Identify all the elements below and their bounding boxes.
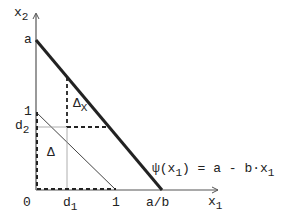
tick-a-over-b: a/b (146, 196, 169, 209)
delta-label: Δ (47, 146, 55, 159)
delta-x-label: ΔX (73, 97, 87, 114)
origin-label: 0 (23, 196, 31, 209)
formula-label: ψ(x1) = a - b·x1 (152, 162, 274, 179)
tick-d1: d1 (63, 196, 77, 213)
tick-a: a (24, 33, 32, 46)
tick-d2: d2 (15, 119, 29, 136)
tick-x-one: 1 (112, 196, 120, 209)
y-axis-label: x2 (14, 6, 28, 23)
x-axis-label: x1 (208, 195, 222, 212)
psi-line (36, 40, 162, 190)
tick-y-one: 1 (24, 105, 32, 118)
diagram-canvas (0, 0, 293, 223)
